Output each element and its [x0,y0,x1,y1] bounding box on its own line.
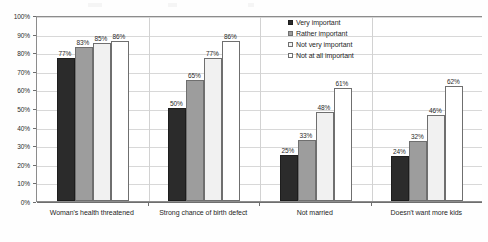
x-category-label: Not married [259,209,371,216]
bar-value-label: 86% [215,33,245,40]
legend-swatch-icon [288,53,293,58]
bar-value-label: 65% [179,72,209,79]
y-tick-label: 40% [17,124,30,131]
x-category-label: Strong chance of birth defect [148,209,260,216]
legend-label: Not very important [296,41,352,48]
scan-artifact [248,3,254,7]
y-tick-label: 0% [21,199,30,206]
bar-value-label: 50% [161,100,191,107]
bar [75,47,93,201]
bar-value-label: 33% [291,132,321,139]
plot-area [36,16,482,202]
x-tick-mark [371,202,372,206]
y-tick-label: 70% [17,68,30,75]
legend-label: Very important [296,19,340,26]
x-category-label: Woman's health threatened [36,209,148,216]
legend-swatch-icon [288,31,293,36]
bar [280,155,298,202]
scan-artifact [168,3,177,7]
bar [391,156,409,201]
bar [111,41,129,201]
legend-item: Rather important [288,28,398,39]
legend-swatch-icon [288,42,293,47]
bar-value-label: 77% [197,50,227,57]
bar [204,58,222,201]
legend-item: Not very important [288,39,398,50]
bar [168,108,186,201]
legend-item: Not at all important [288,50,398,61]
x-tick-mark [259,202,260,206]
bar-value-label: 86% [104,33,134,40]
legend-label: Rather important [296,30,347,37]
bar-value-label: 62% [438,78,468,85]
legend-swatch-icon [288,20,293,25]
y-axis: 0%10%20%30%40%50%60%70%80%90%100% [0,0,34,242]
bar-value-label: 24% [384,148,414,155]
y-tick-label: 50% [17,106,30,113]
bar [222,41,240,201]
bar-value-label: 25% [273,147,303,154]
y-tick-label: 60% [17,87,30,94]
y-tick-label: 100% [14,13,30,20]
bar [316,112,334,201]
x-category-label: Doesn't want more kids [371,209,483,216]
y-tick-label: 80% [17,50,30,57]
bar-value-label: 77% [50,50,80,57]
bar [427,115,445,201]
bar [57,58,75,201]
y-tick-label: 90% [17,31,30,38]
y-tick-mark [33,202,36,203]
y-tick-label: 30% [17,143,30,150]
y-tick-label: 10% [17,180,30,187]
grouped-bar-chart: 0%10%20%30%40%50%60%70%80%90%100% Woman'… [0,0,488,242]
bar-value-label: 32% [402,133,432,140]
bar [186,80,204,201]
legend-item: Very important [288,17,398,28]
scan-artifact [88,3,102,7]
legend-label: Not at all important [296,52,354,59]
bar-value-label: 46% [420,107,450,114]
category-separator [149,17,150,201]
bar-value-label: 48% [309,104,339,111]
bar [93,43,111,201]
bar-value-label: 61% [327,80,357,87]
category-separator [260,17,261,201]
x-tick-mark [148,202,149,206]
bar [445,86,463,201]
chart-legend: Very importantRather importantNot very i… [288,17,398,61]
y-tick-label: 20% [17,161,30,168]
